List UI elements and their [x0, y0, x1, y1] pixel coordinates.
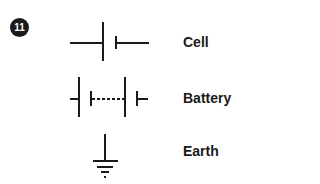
earth-symbol-icon [93, 134, 118, 178]
earth-label: Earth [183, 143, 219, 159]
battery-label: Battery [183, 90, 231, 106]
cell-symbol-icon [70, 22, 149, 61]
battery-symbol-icon [70, 77, 148, 117]
cell-label: Cell [183, 34, 209, 50]
